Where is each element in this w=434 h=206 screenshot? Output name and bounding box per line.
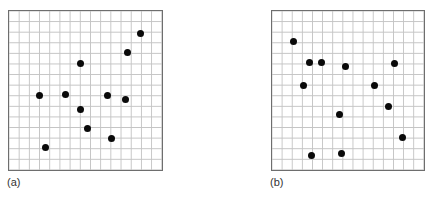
data-point-dot xyxy=(36,92,43,99)
data-point-dot xyxy=(338,150,345,157)
data-point-dot xyxy=(84,125,91,132)
data-point-dot xyxy=(391,60,398,67)
panel-label-a: (a) xyxy=(7,176,20,188)
data-point-dot xyxy=(342,63,349,70)
data-point-dot xyxy=(300,82,307,89)
data-point-dot xyxy=(290,38,297,45)
data-point-dot xyxy=(137,30,144,37)
scatter-grid-panel-a xyxy=(8,10,163,171)
data-point-dot xyxy=(336,111,343,118)
dots-layer-a xyxy=(8,10,163,171)
data-point-dot xyxy=(371,82,378,89)
data-point-dot xyxy=(77,106,84,113)
data-point-dot xyxy=(77,60,84,67)
data-point-dot xyxy=(308,152,315,159)
data-point-dot xyxy=(104,92,111,99)
scatter-grid-panel-b xyxy=(271,10,425,171)
dots-layer-b xyxy=(271,10,425,171)
data-point-dot xyxy=(385,103,392,110)
data-point-dot xyxy=(306,59,313,66)
data-point-dot xyxy=(108,135,115,142)
panel-label-b: (b) xyxy=(270,176,283,188)
data-point-dot xyxy=(62,91,69,98)
data-point-dot xyxy=(124,49,131,56)
data-point-dot xyxy=(318,59,325,66)
data-point-dot xyxy=(399,134,406,141)
data-point-dot xyxy=(122,96,129,103)
data-point-dot xyxy=(42,144,49,151)
